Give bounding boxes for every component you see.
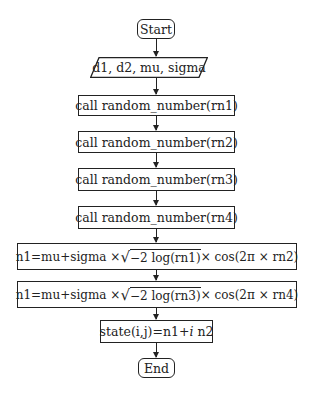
formula2-sqrt-arg: −2 log(rn3): [130, 287, 201, 303]
formula1-rhs: × cos(2π × rn2): [201, 250, 299, 264]
process-call-rn3: call random_number(rn3): [78, 168, 235, 191]
arrow-formula1-to-formula2: [156, 270, 157, 280]
radical-icon: √: [120, 250, 130, 265]
process-state-assign: state(i,j)=n1+i n2: [100, 320, 213, 343]
formula2-lhs: n1=mu+sigma ×: [16, 288, 121, 302]
state-suffix: n2: [193, 324, 213, 339]
start-label: Start: [140, 22, 172, 37]
start-terminal: Start: [137, 19, 175, 39]
arrow-call2-to-call3: [156, 153, 157, 167]
input-parallelogram: d1, d2, mu, sigma: [90, 57, 208, 78]
end-terminal: End: [138, 358, 175, 378]
call-rn4-label: call random_number(rn4): [75, 210, 238, 225]
call-rn3-label: call random_number(rn3): [75, 172, 238, 187]
arrow-call4-to-formula1: [156, 229, 157, 242]
arrow-call3-to-call4: [156, 191, 157, 205]
process-call-rn1: call random_number(rn1): [78, 95, 235, 116]
arrow-input-to-call1: [156, 78, 157, 94]
formula1-sqrt-arg: −2 log(rn1): [130, 249, 201, 265]
state-prefix: state(i,j)=n1+: [100, 324, 190, 339]
arrow-call1-to-call2: [156, 116, 157, 130]
process-call-rn2: call random_number(rn2): [78, 131, 235, 153]
arrow-start-to-input: [156, 39, 157, 56]
end-label: End: [144, 361, 169, 376]
process-call-rn4: call random_number(rn4): [78, 206, 235, 229]
formula1-sqrt: √ −2 log(rn1): [120, 249, 200, 265]
arrow-formula2-to-state: [156, 308, 157, 319]
arrow-state-to-end: [156, 343, 157, 357]
formula2-sqrt: √ −2 log(rn3): [120, 287, 200, 303]
call-rn2-label: call random_number(rn2): [75, 135, 238, 150]
process-formula-1: n1=mu+sigma × √ −2 log(rn1) × cos(2π × r…: [17, 243, 297, 270]
formula1-lhs: n1=mu+sigma ×: [16, 250, 121, 264]
call-rn1-label: call random_number(rn1): [75, 98, 238, 113]
process-formula-2: n1=mu+sigma × √ −2 log(rn3) × cos(2π × r…: [17, 281, 297, 308]
input-label: d1, d2, mu, sigma: [92, 60, 205, 75]
formula2-rhs: × cos(2π × rn4): [201, 288, 299, 302]
radical-icon: √: [120, 288, 130, 303]
